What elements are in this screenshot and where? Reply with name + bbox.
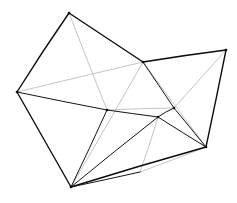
- vertex-right-outer-bottom: [205, 146, 208, 149]
- vertex-mid-right-node: [173, 107, 176, 110]
- vertex-mid-upper-joint: [142, 61, 145, 64]
- figure-canvas: [0, 0, 237, 203]
- vertex-mid-left-saddle: [106, 109, 109, 112]
- vertex-right-outer-top: [225, 49, 228, 52]
- vertex-mid-right-peak: [157, 116, 160, 119]
- vertex-left-outer: [16, 91, 19, 94]
- wireframe-polyhedron-drawing: [0, 0, 237, 203]
- vertex-bottom-outer: [70, 186, 73, 189]
- vertex-apex-top: [68, 12, 71, 15]
